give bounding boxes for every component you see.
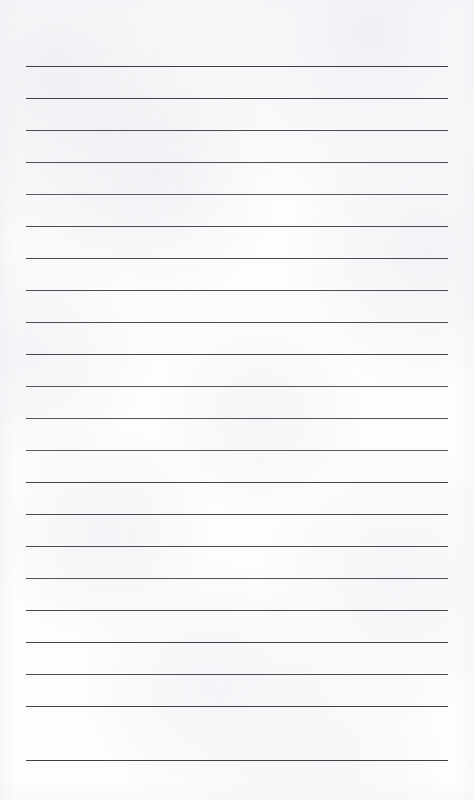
lined-paper-page bbox=[0, 0, 474, 800]
rule-line bbox=[26, 482, 448, 483]
rule-line bbox=[26, 386, 448, 387]
rule-line bbox=[26, 418, 448, 419]
rule-line bbox=[26, 674, 448, 675]
rule-line bbox=[26, 194, 448, 195]
rule-line bbox=[26, 322, 448, 323]
rule-line bbox=[26, 706, 448, 707]
rule-line bbox=[26, 354, 448, 355]
rule-line bbox=[26, 546, 448, 547]
rule-line bbox=[26, 162, 448, 163]
rule-line bbox=[26, 66, 448, 67]
rule-line bbox=[26, 610, 448, 611]
rule-line bbox=[26, 760, 448, 761]
rule-line bbox=[26, 578, 448, 579]
rule-line bbox=[26, 258, 448, 259]
rule-line bbox=[26, 226, 448, 227]
rule-line bbox=[26, 130, 448, 131]
rule-line bbox=[26, 642, 448, 643]
rule-line bbox=[26, 98, 448, 99]
rule-line bbox=[26, 450, 448, 451]
rule-line bbox=[26, 290, 448, 291]
writing-area[interactable] bbox=[0, 0, 474, 800]
rule-line bbox=[26, 514, 448, 515]
